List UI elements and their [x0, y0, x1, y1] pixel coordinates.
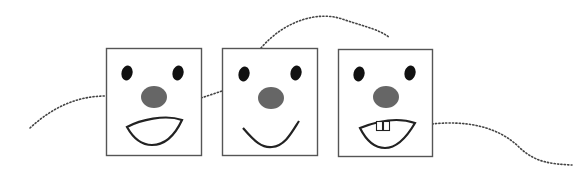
face-teeth — [339, 50, 433, 157]
dotted-line-top-arc — [261, 16, 390, 48]
nose-icon — [141, 86, 167, 108]
illustration-canvas — [0, 0, 573, 176]
dotted-line-right — [432, 123, 572, 165]
tooth-left — [377, 122, 383, 131]
nose-icon — [373, 86, 399, 108]
faces-drawing — [0, 0, 573, 176]
nose-icon — [258, 87, 284, 109]
tooth-right — [384, 122, 390, 131]
dotted-line-left — [30, 96, 106, 128]
dotted-line-middle-low — [201, 91, 222, 98]
face-smile — [223, 49, 318, 156]
face-open-mouth — [107, 49, 202, 156]
